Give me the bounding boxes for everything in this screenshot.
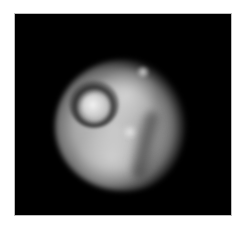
bright-spot — [123, 124, 137, 140]
cell-surface-bump — [135, 66, 151, 78]
nucleus — [82, 94, 106, 118]
image-caption — [15, 216, 231, 228]
cell-body — [43, 48, 200, 205]
micrograph-frame — [15, 14, 231, 215]
